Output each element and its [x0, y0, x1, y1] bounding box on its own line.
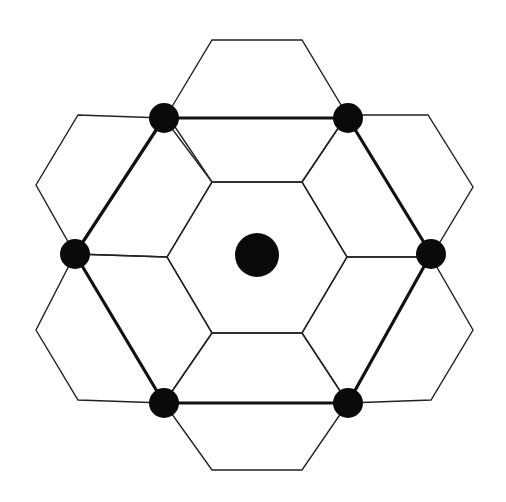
vertex-dot-bottom-right — [333, 388, 363, 418]
vertex-dot-left — [60, 239, 90, 269]
hexagon-top — [167, 40, 347, 182]
vertex-dot-top-right — [333, 103, 363, 133]
vertex-dot-right — [416, 239, 446, 269]
hexagon-upper-left — [36, 115, 212, 257]
vertex-dot-bottom-left — [149, 388, 179, 418]
hexagon-upper-right — [302, 115, 473, 257]
center-dot — [235, 233, 279, 277]
hexagonal-lattice-diagram — [0, 0, 506, 502]
vertex-dot-top-left — [149, 103, 179, 133]
hexagon-lower-left — [36, 254, 212, 403]
